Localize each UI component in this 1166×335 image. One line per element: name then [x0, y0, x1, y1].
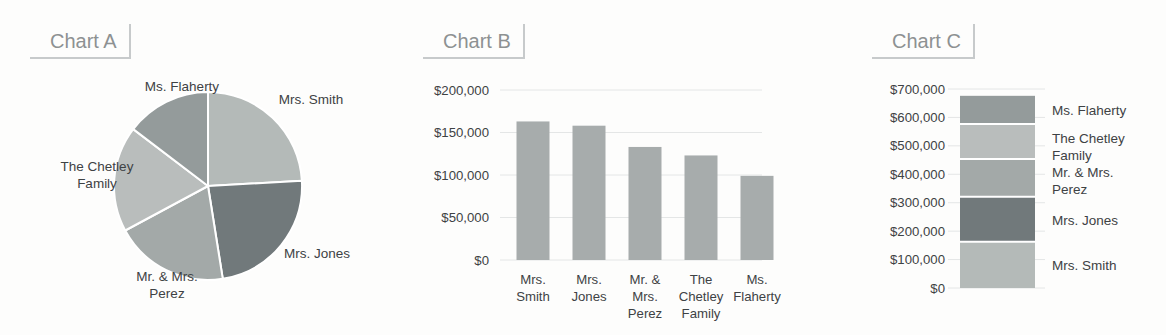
stack-segment-label-mr-mrs-perez: Mr. & Mrs.: [1052, 165, 1114, 180]
bar-chart-y-tick-label: $50,000: [441, 210, 489, 225]
bar-chart-category-label-mrs-smith: Mrs.: [520, 272, 546, 287]
pie-slice-label-mr-mrs-perez: Mr. & Mrs.: [136, 269, 198, 284]
bar-ms-flaherty: [741, 176, 774, 260]
stack-segment-label-the-chetley-family: The Chetley: [1052, 131, 1125, 146]
bar-chart-y-tick-label: $0: [474, 253, 489, 268]
stacked-chart-y-tick-label: $300,000: [890, 195, 945, 210]
bar-chart-y-tick-label: $100,000: [434, 168, 489, 183]
stack-segment-label-mrs-jones: Mrs. Jones: [1052, 213, 1118, 228]
bar-chart-category-label-ms-flaherty: Flaherty: [733, 289, 781, 304]
stack-segment-label-the-chetley-family: Family: [1052, 148, 1092, 163]
stacked-chart-y-tick-label: $0: [930, 281, 945, 296]
stack-segment-label-ms-flaherty: Ms. Flaherty: [1052, 103, 1127, 118]
pie-slice-mrs-jones: [208, 181, 302, 279]
stack-segment-label-mr-mrs-perez: Perez: [1052, 182, 1088, 197]
stack-segment-mrs-jones: [960, 197, 1035, 242]
stacked-chart-y-tick-label: $200,000: [890, 224, 945, 239]
pie-slice-label-mrs-jones: Mrs. Jones: [284, 246, 350, 261]
pie-slice-label-the-chetley-family: The Chetley: [61, 159, 134, 174]
bar-chart-category-label-mr-mrs-perez: Mr. &: [630, 272, 661, 287]
three-charts-figure: Chart A Chart B Chart C Mrs. SmithMrs. J…: [0, 0, 1166, 335]
bar-chart-category-label-the-chetley-family: The: [690, 272, 713, 287]
bar-chart-category-label-mr-mrs-perez: Mrs.: [632, 289, 658, 304]
bar-the-chetley-family: [685, 155, 718, 260]
pie-slice-label-the-chetley-family: Family: [77, 176, 117, 191]
stack-segment-label-mrs-smith: Mrs. Smith: [1052, 258, 1117, 273]
stack-segment-mrs-smith: [960, 242, 1035, 288]
bar-chart-category-label-mrs-smith: Smith: [516, 289, 550, 304]
bar-mrs-smith: [517, 121, 550, 260]
pie-slice-label-ms-flaherty: Ms. Flaherty: [145, 79, 220, 94]
bar-mr-mrs-perez: [629, 147, 662, 260]
bar-chart-category-label-the-chetley-family: Family: [682, 306, 721, 321]
stacked-chart-y-tick-label: $600,000: [890, 110, 945, 125]
stack-segment-mr-mrs-perez: [960, 159, 1035, 197]
charts-svg: Mrs. SmithMrs. JonesMr. & Mrs.PerezThe C…: [0, 0, 1166, 335]
bar-chart-y-tick-label: $200,000: [434, 83, 489, 98]
pie-slice-label-mrs-smith: Mrs. Smith: [279, 92, 344, 107]
stack-segment-the-chetley-family: [960, 124, 1035, 159]
stacked-chart-y-tick-label: $700,000: [890, 82, 945, 97]
bar-mrs-jones: [573, 126, 606, 260]
bar-chart-category-label-mr-mrs-perez: Perez: [628, 306, 662, 321]
bar-chart-y-tick-label: $150,000: [434, 125, 489, 140]
stacked-chart-y-tick-label: $500,000: [890, 138, 945, 153]
stacked-chart-y-tick-label: $400,000: [890, 167, 945, 182]
bar-chart-category-label-the-chetley-family: Chetley: [679, 289, 724, 304]
pie-slice-label-mr-mrs-perez: Perez: [149, 286, 185, 301]
bar-chart-category-label-mrs-jones: Mrs.: [576, 272, 602, 287]
stack-segment-ms-flaherty: [960, 96, 1035, 124]
stacked-chart-y-tick-label: $100,000: [890, 252, 945, 267]
bar-chart-category-label-mrs-jones: Jones: [571, 289, 607, 304]
bar-chart-category-label-ms-flaherty: Ms.: [746, 272, 767, 287]
